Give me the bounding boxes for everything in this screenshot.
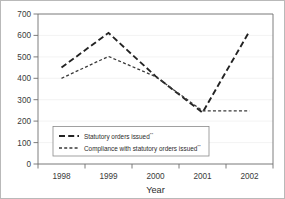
y-tick-label: 0 (26, 160, 31, 169)
y-tick-label: 700 (17, 10, 31, 19)
line-chart: 0 100 200 300 400 500 600 700 1998 1999 … (1, 1, 285, 199)
x-tick-label: 1999 (99, 172, 118, 181)
x-tick-label: 2002 (240, 172, 259, 181)
y-tick-label: 400 (17, 74, 31, 83)
y-axis-tick-labels: 0 100 200 300 400 500 600 700 (17, 10, 31, 169)
series-line-compliance-with-statutory-orders-issued (62, 56, 250, 110)
figure-container: 0 100 200 300 400 500 600 700 1998 1999 … (0, 0, 285, 199)
y-tick-label: 200 (17, 117, 31, 126)
series-line-statutory-orders-issued (62, 31, 250, 112)
legend-label-compliance-with-statutory-orders-issued: Compliance with statutory orders issued*… (84, 144, 201, 152)
y-tick-label: 600 (17, 31, 31, 40)
legend-label-statutory-orders-issued: Statutory orders issued** (84, 132, 153, 140)
y-tick-label: 100 (17, 139, 31, 148)
x-tick-label: 1998 (52, 172, 71, 181)
x-tick-label: 2001 (193, 172, 212, 181)
x-tick-marks (38, 164, 273, 169)
x-axis-title: Year (146, 185, 165, 195)
y-tick-label: 500 (17, 53, 31, 62)
y-tick-marks (34, 14, 39, 164)
x-tick-label: 2000 (146, 172, 165, 181)
y-tick-label: 300 (17, 96, 31, 105)
x-axis-tick-labels: 1998 1999 2000 2001 2002 (52, 172, 259, 181)
chart-legend: Statutory orders issued** Compliance wit… (53, 127, 209, 157)
